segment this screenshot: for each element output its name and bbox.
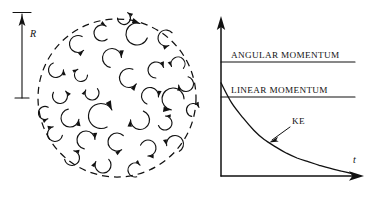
vortex-arc (92, 155, 114, 176)
radius-dimension: R (13, 13, 36, 99)
vortex-arrow (85, 99, 119, 132)
vortex-arc (91, 23, 112, 44)
vortex-arrow (66, 33, 88, 57)
vortex-arrow (162, 130, 187, 155)
vortex-arrow (50, 87, 71, 106)
vortex-arrow (74, 127, 97, 151)
vortex-arc (128, 108, 153, 133)
vortex-arrowhead-icon (81, 90, 88, 96)
vortex-arrow (100, 44, 124, 70)
vortex-arc (100, 46, 124, 70)
vortex-arc (58, 107, 80, 130)
vortex-arrow (167, 53, 188, 72)
vortex-arrowhead-icon (162, 106, 171, 112)
angular-momentum-label: ANGULAR MOMENTUM (231, 50, 339, 60)
vortex-arrowhead-icon (100, 21, 107, 28)
vortex-arc (127, 163, 141, 178)
vortex-arc (138, 84, 161, 107)
vortex-arrow (127, 108, 153, 135)
vortex-arrowhead-icon (167, 60, 174, 66)
figure-canvas: R t ANGULAR MOMENTUM LINEAR MOMEN (0, 0, 386, 197)
linear-momentum-label: LINEAR MOMENTUM (231, 85, 328, 95)
eddy-layer (36, 12, 201, 178)
vortex-arrowhead-icon (131, 18, 141, 27)
physics-figure: R t ANGULAR MOMENTUM LINEAR MOMEN (0, 0, 386, 197)
ke-leader-line (272, 127, 290, 140)
vortex-arrow (147, 59, 165, 79)
vortex-arc (83, 84, 102, 102)
vortex-arrow (104, 129, 129, 155)
vortex-arrowhead-icon (162, 43, 169, 50)
ke-label: KE (292, 116, 305, 126)
vortex-arc (169, 54, 187, 72)
vortex-arrowhead-icon (91, 161, 98, 168)
vortex-arrow (58, 107, 81, 132)
ke-annotation: KE (269, 116, 305, 143)
vortex-arrow (138, 83, 161, 107)
vortex-arrow (117, 66, 140, 91)
vortex-arc (138, 137, 159, 158)
ke-leader-arrowhead-icon (269, 137, 279, 143)
vortex-arc (104, 129, 128, 154)
vortex-arrow (71, 68, 89, 82)
turbulent-region-panel: R (13, 12, 201, 178)
vortex-arc (50, 87, 69, 105)
vortex-arrow (156, 113, 177, 132)
decay-chart-panel: t ANGULAR MOMENTUM LINEAR MOMENTUM KE (217, 16, 364, 181)
radius-label: R (29, 28, 36, 39)
x-axis-label: t (353, 154, 356, 165)
vortex-arc (85, 100, 117, 132)
vortex-arrow (185, 99, 201, 118)
vortex-arc (37, 105, 52, 121)
vortex-arc (117, 66, 139, 89)
vortex-arrow (36, 105, 52, 124)
vortex-arc (67, 33, 88, 54)
vortex-arrow (81, 84, 102, 103)
vortex-arrow (122, 18, 153, 49)
vortex-arrow (138, 137, 161, 159)
vortex-arrowhead-icon (105, 100, 114, 111)
series-angular-momentum: ANGULAR MOMENTUM (221, 50, 355, 62)
vortex-arc (164, 132, 187, 155)
vortex-arc (74, 128, 96, 151)
vortex-arrow (46, 60, 67, 82)
vortex-arrowhead-icon (75, 119, 82, 127)
vortex-arc (46, 60, 66, 80)
vortex-arrow (63, 149, 84, 168)
series-linear-momentum: LINEAR MOMENTUM (221, 85, 355, 97)
vortex-arrow (127, 160, 141, 178)
vortex-arrow (90, 21, 112, 44)
vortex-arrowhead-icon (42, 117, 48, 123)
vortex-arc (156, 114, 175, 132)
